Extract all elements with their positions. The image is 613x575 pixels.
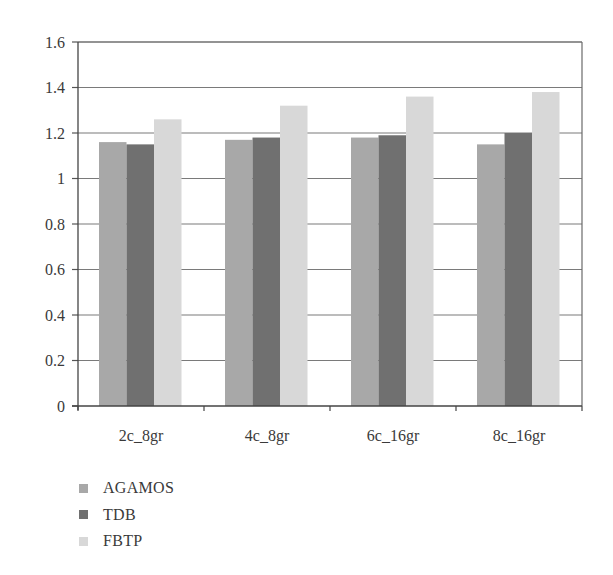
legend-label: AGAMOS <box>103 479 174 497</box>
y-tick-label: 0.8 <box>45 216 65 233</box>
y-tick-label: 1.6 <box>45 34 65 51</box>
legend-swatch <box>79 510 88 519</box>
bar-tdb-6c_16gr <box>379 135 407 406</box>
bars <box>99 92 560 406</box>
bar-agamos-4c_8gr <box>225 140 253 406</box>
bar-fbtp-4c_8gr <box>280 106 308 406</box>
bar-agamos-6c_16gr <box>351 138 379 406</box>
x-tick-label: 6c_16gr <box>367 427 420 445</box>
legend-swatch <box>79 484 88 493</box>
bar-fbtp-8c_16gr <box>532 92 560 406</box>
legend-item-fbtp: FBTP <box>79 528 174 555</box>
bar-agamos-2c_8gr <box>99 142 127 406</box>
legend-label: TDB <box>103 506 136 524</box>
y-tick-label: 0.2 <box>45 352 65 369</box>
bar-fbtp-2c_8gr <box>154 119 182 406</box>
bar-fbtp-6c_16gr <box>406 97 434 406</box>
legend: AGAMOSTDBFBTP <box>79 475 174 555</box>
legend-item-tdb: TDB <box>79 502 174 529</box>
y-tick-label: 0 <box>57 398 65 415</box>
x-tick-label: 2c_8gr <box>119 427 164 445</box>
legend-label: FBTP <box>103 532 142 550</box>
bar-tdb-2c_8gr <box>127 144 155 406</box>
bar-chart: 00.20.40.60.811.21.41.6 2c_8gr4c_8gr6c_1… <box>0 0 613 470</box>
x-tick-labels: 2c_8gr4c_8gr6c_16gr8c_16gr <box>119 427 546 445</box>
y-tick-label: 1.2 <box>45 125 65 142</box>
y-tick-label: 0.4 <box>45 307 65 324</box>
y-tick-label: 1.4 <box>45 79 65 96</box>
bar-tdb-4c_8gr <box>253 138 281 406</box>
y-tick-label: 0.6 <box>45 261 65 278</box>
legend-item-agamos: AGAMOS <box>79 475 174 502</box>
legend-swatch <box>79 537 88 546</box>
x-tick-label: 8c_16gr <box>493 427 546 445</box>
y-tick-labels: 00.20.40.60.811.21.41.6 <box>45 34 65 415</box>
x-tick-label: 4c_8gr <box>245 427 290 445</box>
y-tick-label: 1 <box>57 170 65 187</box>
bar-agamos-8c_16gr <box>477 144 505 406</box>
bar-tdb-8c_16gr <box>505 133 533 406</box>
